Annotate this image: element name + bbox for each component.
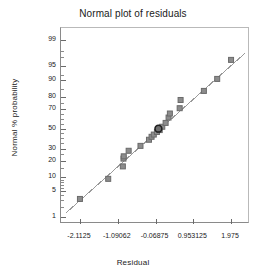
x-axis-tick-label: 1.975	[221, 232, 239, 239]
data-point	[167, 111, 172, 116]
x-axis-tick-label: 0.953125	[178, 232, 207, 239]
x-axis-tick-label: -1.09062	[103, 232, 131, 239]
x-axis-tick-labels: -2.1125-1.09062-0.068750.9531251.975	[60, 232, 249, 244]
x-axis-tick-label: -2.1125	[67, 232, 90, 239]
data-point	[77, 196, 82, 201]
plot-canvas	[61, 28, 250, 224]
y-axis-tick-label: 90	[48, 75, 56, 82]
y-axis-tick-label: 99	[48, 35, 56, 42]
y-axis-tick-label: 10	[48, 172, 56, 179]
data-point	[126, 148, 131, 153]
y-axis-tick-label: 20	[48, 156, 56, 163]
y-axis-tick-label: 70	[48, 104, 56, 111]
chart-title: Normal plot of residuals	[0, 8, 266, 19]
x-axis-title: Residual	[0, 258, 266, 267]
y-axis-title: Normal % probability	[10, 58, 19, 178]
highlighted-data-point	[155, 125, 162, 132]
y-axis-tick-label: 50	[48, 124, 56, 131]
y-axis-tick-label: 95	[48, 61, 56, 68]
data-point	[229, 57, 234, 62]
y-axis-tick-label: 80	[48, 92, 56, 99]
y-axis-tick-label: 1	[52, 212, 56, 219]
data-point	[163, 120, 168, 125]
x-axis-tick-label: -0.06875	[141, 232, 169, 239]
data-point	[201, 88, 206, 93]
y-axis-tick-labels: 15102030507080909599	[36, 27, 56, 223]
plot-area	[60, 27, 249, 223]
data-point	[178, 97, 183, 102]
axis-tick-marks	[61, 41, 232, 225]
data-point	[215, 76, 220, 81]
data-point	[121, 154, 126, 159]
y-axis-tick-label: 5	[52, 186, 56, 193]
y-axis-tick-label: 30	[48, 144, 56, 151]
data-point	[138, 143, 143, 148]
data-point	[120, 164, 125, 169]
data-point-markers	[77, 57, 233, 201]
data-point	[106, 176, 111, 181]
data-point	[177, 106, 182, 111]
normal-probability-plot-figure: Normal plot of residuals Normal % probab…	[0, 0, 266, 278]
